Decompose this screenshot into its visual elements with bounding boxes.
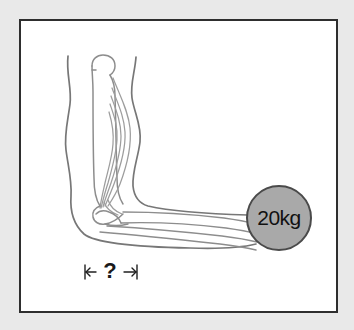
diagram-panel: [19, 19, 338, 313]
dimension-label: ?: [98, 258, 122, 284]
weight-label: 20kg: [243, 203, 315, 233]
arm-biomechanics-diagram: 20kg ?: [0, 0, 354, 330]
